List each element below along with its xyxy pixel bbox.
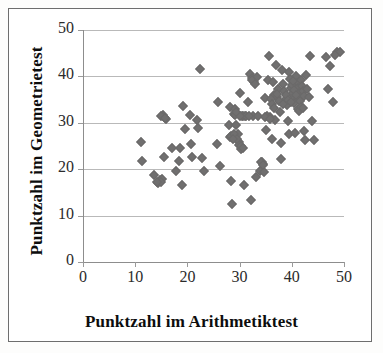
data-point — [261, 125, 271, 135]
x-tick-label: 20 — [167, 268, 207, 286]
x-tick — [187, 262, 188, 267]
data-point — [199, 166, 209, 176]
data-point — [226, 176, 236, 186]
x-tick-label: 50 — [324, 268, 364, 286]
data-point — [137, 156, 147, 166]
x-tick-label: 10 — [115, 268, 155, 286]
data-point — [309, 135, 319, 145]
data-point — [235, 88, 245, 98]
data-point — [178, 101, 188, 111]
data-point — [193, 123, 203, 133]
data-point — [264, 51, 274, 61]
data-point — [213, 97, 223, 107]
data-point — [175, 143, 185, 153]
x-tick — [135, 262, 136, 267]
data-point — [161, 113, 171, 123]
data-point — [283, 116, 293, 126]
data-point — [276, 138, 286, 148]
x-axis-title: Punktzahl im Arithmetiktest — [0, 312, 383, 332]
x-tick — [240, 262, 241, 267]
y-axis-title: Punktzahl im Geometrietest — [27, 11, 47, 291]
data-point — [250, 79, 260, 89]
x-tick-label: 40 — [272, 268, 312, 286]
x-tick — [83, 262, 84, 267]
data-point — [246, 195, 256, 205]
data-point — [212, 139, 222, 149]
x-tick-label: 30 — [220, 268, 260, 286]
data-point — [186, 139, 196, 149]
x-tick-label: 0 — [63, 268, 103, 286]
data-point — [197, 153, 207, 163]
data-point — [180, 124, 190, 134]
data-point — [215, 161, 225, 171]
data-point — [328, 97, 338, 107]
data-point — [239, 180, 249, 190]
data-point — [159, 152, 169, 162]
data-point — [325, 61, 335, 71]
scatter-chart: 0102030405001020304050 Punktzahl im Arit… — [0, 0, 383, 353]
data-point — [177, 180, 187, 190]
data-point — [305, 51, 315, 61]
plot-area — [83, 30, 344, 262]
data-point — [171, 166, 181, 176]
data-point — [323, 84, 333, 94]
data-point — [174, 156, 184, 166]
x-tick — [344, 262, 345, 267]
data-point — [227, 199, 237, 209]
x-tick — [292, 262, 293, 267]
data-point — [195, 64, 205, 74]
data-point — [276, 154, 286, 164]
data-point — [137, 137, 147, 147]
data-point — [187, 152, 197, 162]
data-point — [243, 97, 253, 107]
x-axis-line — [83, 262, 345, 263]
data-point — [307, 116, 317, 126]
